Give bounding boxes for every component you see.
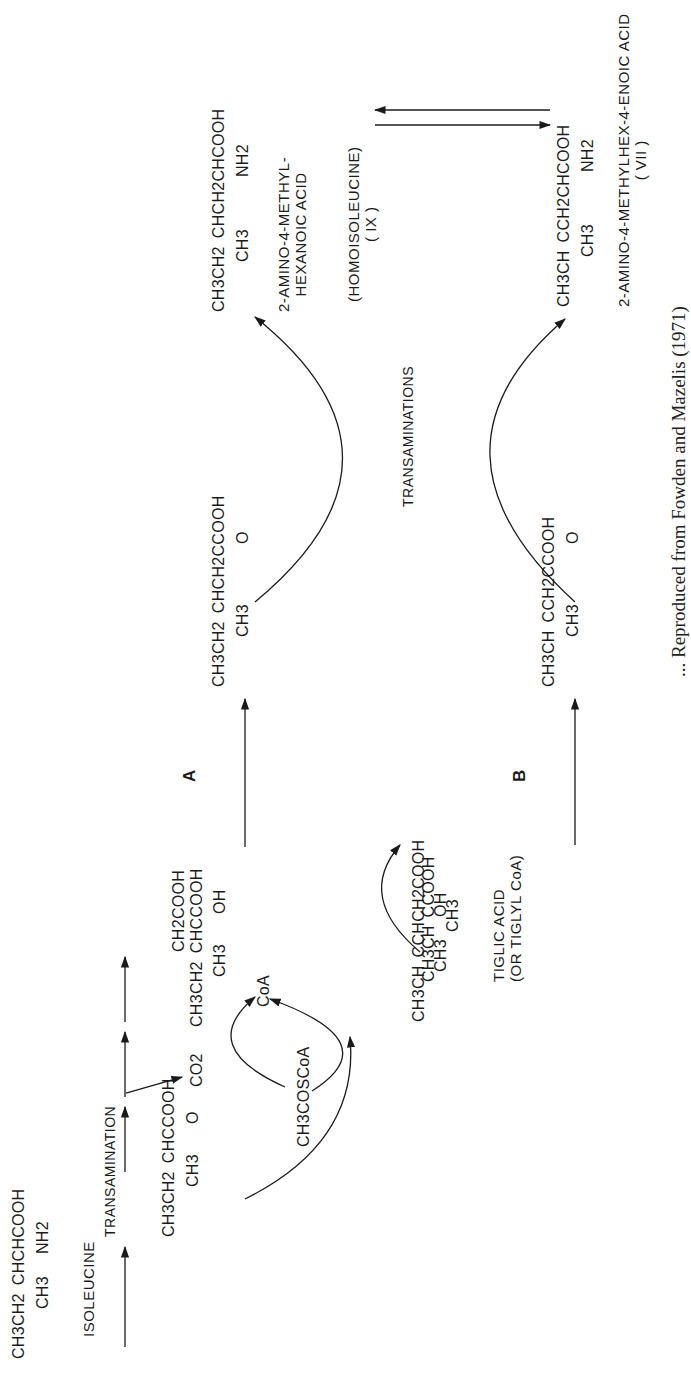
amino-enoic-acid-main-chain: CCH2CHCOOH: [555, 125, 572, 243]
homoisoleucine-alias-text: (HOMOISOLEUCINE): [345, 146, 362, 302]
homoisoleucine-ch3ch2: CH3CH2: [210, 246, 227, 312]
isoleucine-ch3: CH3: [34, 1276, 51, 1309]
isoleucine-structure: CH3CH2CHCHCOOH CH3NH2: [10, 1189, 53, 1359]
transaminations-label: TRANSAMINATIONS: [400, 366, 416, 507]
hydroxy-acid-a-ch3: CH3: [211, 944, 228, 977]
rotated-diagram: CH3CH2CHCHCOOH CH3NH2 ISOLEUCINE TRANSAM…: [0, 0, 691, 1377]
tiglic-acid-name: TIGLIC ACID (OR TIGLYL CoA): [490, 855, 525, 982]
keto-b-oxygen: O: [564, 531, 581, 544]
keto-b-structure: CH3CHCCH2CCOOH CH3O: [540, 517, 583, 687]
amino-enoic-acid-nh2: NH2: [579, 139, 596, 172]
keto-acid-ch3ch2: CH3CH2: [160, 1171, 177, 1237]
amino-enoic-acid-name: 2-AMINO-4-METHYLHEX-4-ENOIC ACID ( VII ): [615, 13, 650, 307]
isoleucine-name: ISOLEUCINE: [80, 1241, 97, 1337]
amino-enoic-acid-number: ( VII ): [632, 13, 649, 307]
pathway-label-a: A: [180, 769, 200, 782]
isoleucine-ch3ch2: CH3CH2: [10, 1293, 27, 1359]
isoleucine-main-chain: CHCHCOOH: [10, 1189, 27, 1286]
transamination-label: TRANSAMINATION: [102, 1106, 118, 1237]
tiglic-acid-name-line1: TIGLIC ACID: [490, 855, 507, 982]
keto-acid-main-chain: CHCCOOH: [160, 1078, 177, 1163]
keto-b-main-chain: CCH2CCOOH: [540, 517, 557, 623]
co2-label: CO2: [188, 1053, 206, 1087]
keto-a-ch3ch2: CH3CH2: [210, 621, 227, 687]
hydroxy-acid-b-oh: OH: [432, 892, 449, 917]
keto-b-ch3: CH3: [564, 604, 581, 637]
hydroxy-acid-a-main-chain: CHCCOOH: [188, 868, 205, 953]
homoisoleucine-main-chain: CHCH2CHCOOH: [210, 109, 227, 239]
homoisoleucine-ch3: CH3: [234, 229, 251, 262]
hydroxy-acid-b-main-chain: CCHCH2COOH: [410, 840, 427, 958]
keto-a-main-chain: CHCH2CCOOH: [210, 496, 227, 614]
arrow-acetylcoa-to-coa: [231, 997, 285, 1087]
keto-acid-structure: CH3CH2CHCCOOH CH3O: [160, 1078, 203, 1237]
homoisoleucine-name-line1: 2-AMINO-4-METHYL-: [275, 157, 292, 312]
hydroxy-acid-b-ch3ch: CH3CH: [410, 965, 427, 1022]
tiglic-acid-name-line2: (OR TIGLYL CoA): [507, 855, 524, 982]
hydroxy-acid-b-structure: CH3CHCCHCH2COOH CH3OH: [410, 840, 451, 1022]
hydroxy-acid-a-oh: OH: [211, 889, 228, 914]
homoisoleucine-nh2: NH2: [234, 144, 251, 177]
hydroxy-acid-b-ch3: CH3: [432, 939, 449, 972]
acetyl-coa-label: CH3COSCoA: [295, 1046, 313, 1147]
amino-enoic-acid-name-text: 2-AMINO-4-METHYLHEX-4-ENOIC ACID: [615, 13, 632, 307]
keto-b-ch3ch: CH3CH: [540, 630, 557, 687]
keto-a-oxygen: O: [234, 531, 251, 544]
hydroxy-acid-a-ch3ch2: CH3CH2: [188, 961, 205, 1027]
amino-enoic-acid-ch3ch: CH3CH: [555, 250, 572, 307]
amino-enoic-acid-structure: CH3CHCCH2CHCOOH CH3NH2: [555, 125, 598, 307]
pathway-label-b: B: [510, 769, 530, 782]
isoleucine-nh2: NH2: [34, 1221, 51, 1254]
amino-enoic-acid-ch3: CH3: [579, 224, 596, 257]
coa-label: CoA: [255, 975, 273, 1007]
homoisoleucine-alias: (HOMOISOLEUCINE) ( IX ): [345, 146, 380, 302]
homoisoleucine-name: 2-AMINO-4-METHYL- HEXANOIC ACID: [275, 157, 310, 312]
arrow-transamination-a: [255, 317, 343, 602]
keto-acid-oxygen: O: [184, 1111, 201, 1124]
hydroxy-acid-a-ch2cooh: CH2COOH: [170, 870, 187, 952]
homoisoleucine-name-line2: HEXANOIC ACID: [292, 157, 309, 312]
keto-a-structure: CH3CH2CHCH2CCOOH CH3O: [210, 496, 253, 688]
hydroxy-acid-a-structure: CH2COOH CH3CH2CHCCOOH CH3OH: [170, 868, 229, 1027]
homoisoleucine-number: ( IX ): [362, 146, 379, 302]
keto-acid-ch3: CH3: [184, 1154, 201, 1187]
keto-a-ch3: CH3: [234, 604, 251, 637]
homoisoleucine-structure: CH3CH2CHCH2CHCOOH CH3NH2: [210, 109, 253, 312]
figure-caption: ... Reproduced from Fowden and Mazelis (…: [668, 306, 690, 677]
